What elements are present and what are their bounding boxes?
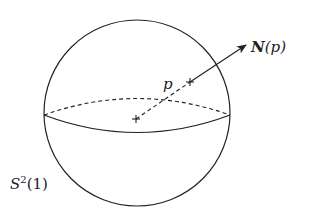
center-cross-marker [132,115,140,123]
unit-sphere-normal-diagram: p N(p) S2(1) [0,0,315,217]
sphere-symbol: S [10,175,20,193]
normal-symbol: N [250,38,266,56]
normal-vector-arrow [190,45,246,82]
sphere-outline [44,20,230,206]
equator-back-dashed [44,99,230,116]
normal-argument: (p) [265,38,286,56]
point-p-label: p [163,75,173,93]
point-p-cross-marker [186,78,194,86]
equator-front-solid [44,115,230,133]
normal-vector-label: N(p) [250,38,286,56]
sphere-argument: (1) [27,175,48,193]
sphere-label: S2(1) [10,174,48,193]
